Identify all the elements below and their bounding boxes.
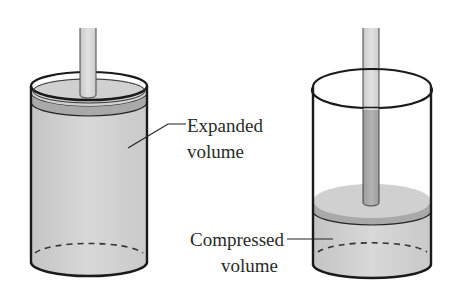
compressed-volume-label: Compressed volume xyxy=(160,227,284,279)
compressed-label-line2: volume xyxy=(160,253,284,279)
left-piston-rod xyxy=(80,28,96,98)
expanded-label-line2: volume xyxy=(187,139,263,165)
expanded-gas-volume xyxy=(31,92,147,276)
expanded-label-line1: Expanded xyxy=(187,113,263,139)
expanded-volume-label: Expanded volume xyxy=(187,113,263,165)
right-piston-rod xyxy=(363,28,379,206)
compressed-label-line1: Compressed xyxy=(160,227,284,253)
right-cylinder-compressed xyxy=(287,28,432,278)
